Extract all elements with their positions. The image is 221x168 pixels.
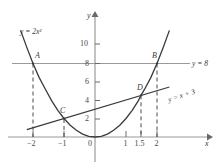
y-axis-arrow-icon — [92, 11, 99, 17]
curve-label-parabola: y = 2x² — [20, 28, 41, 36]
y-axis-label: y — [87, 12, 91, 20]
curve-label-horizontal-line: y = 8 — [192, 60, 208, 68]
point-label-B: B — [152, 52, 157, 60]
x-tick-label-minus2: −2 — [27, 140, 36, 148]
point-marker-D — [140, 94, 142, 96]
point-label-A: A — [35, 52, 40, 60]
point-marker-A — [32, 62, 34, 64]
point-marker-B — [156, 62, 158, 64]
point-label-D: D — [137, 84, 143, 92]
graph-figure: y x 10 8 6 4 2 −2 −1 0 1 1.5 2 A B C D y… — [0, 0, 221, 168]
x-tick-label-minus1: −1 — [58, 140, 67, 148]
x-tick-label-1point5: 1.5 — [135, 140, 145, 148]
x-tick-label-2: 2 — [155, 140, 159, 148]
y-tick-label-8: 8 — [85, 60, 89, 68]
x-tick-label-1: 1 — [124, 140, 128, 148]
x-tick-label-0: 0 — [88, 140, 92, 148]
y-tick-label-4: 4 — [85, 97, 89, 105]
point-marker-C — [63, 117, 65, 119]
y-tick-label-2: 2 — [85, 115, 89, 123]
x-axis-label: x — [205, 140, 209, 148]
point-label-C: C — [60, 107, 65, 115]
y-tick-label-6: 6 — [85, 78, 89, 86]
y-tick-label-10: 10 — [80, 40, 88, 48]
